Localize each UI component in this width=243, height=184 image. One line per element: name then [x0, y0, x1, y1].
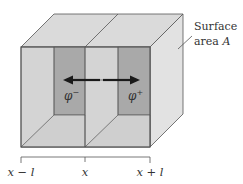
annotation-line1: Surface — [194, 20, 237, 33]
x-axis — [21, 157, 150, 163]
tick-label-x: x — [82, 165, 89, 179]
tick-label-x-minus-l: x − l — [7, 165, 34, 179]
diffusion-box-diagram: φ− φ+ Surface area A x − l x x + l — [0, 0, 243, 184]
annotation-line2: area A — [194, 35, 230, 48]
tick-label-x-plus-l: x + l — [136, 165, 163, 179]
